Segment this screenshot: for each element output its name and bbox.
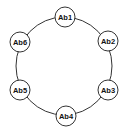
node-ab6: Ab6 — [10, 32, 30, 52]
node-ab2: Ab2 — [98, 31, 118, 51]
node-ab4: Ab4 — [56, 106, 76, 126]
ring-connector — [16, 17, 112, 115]
node-label: Ab1 — [58, 13, 72, 22]
node-label: Ab6 — [13, 38, 27, 47]
node-ab1: Ab1 — [55, 7, 75, 27]
node-group: Ab1 Ab2 Ab3 Ab4 Ab5 Ab6 — [10, 7, 118, 126]
node-label: Ab5 — [13, 86, 27, 95]
ring-diagram: Ab1 Ab2 Ab3 Ab4 Ab5 Ab6 — [0, 0, 126, 136]
node-label: Ab4 — [59, 112, 74, 121]
node-ab3: Ab3 — [98, 80, 118, 100]
node-label: Ab3 — [101, 86, 115, 95]
node-ab5: Ab5 — [10, 80, 30, 100]
node-label: Ab2 — [101, 37, 115, 46]
